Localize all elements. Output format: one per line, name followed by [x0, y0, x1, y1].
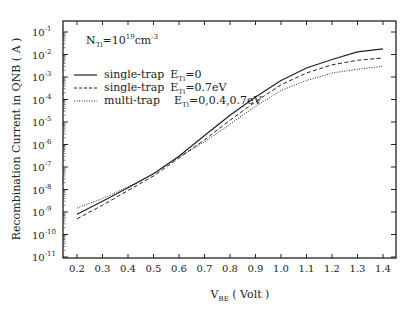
y-tick-label: 10-6 — [32, 138, 52, 151]
y-tick-label: 10-1 — [32, 25, 52, 38]
x-tick-label: 0.5 — [146, 263, 162, 274]
y-tick-label: 10-8 — [32, 183, 52, 196]
x-tick-label: 0.8 — [222, 263, 238, 274]
y-axis-ticks: 10-110-210-310-410-510-610-710-810-910-1… — [32, 25, 396, 263]
x-tick-label: 0.2 — [69, 263, 85, 274]
doping-annotation: NTi=1019cm-3 — [86, 33, 158, 49]
y-tick-label: 10-5 — [32, 115, 52, 128]
x-tick-label: 0.7 — [197, 263, 213, 274]
x-tick-label: 1.4 — [375, 263, 391, 274]
y-tick-label: 10-11 — [32, 250, 56, 263]
y-tick-label: 10-2 — [32, 48, 52, 61]
y-tick-label: 10-9 — [32, 205, 52, 218]
x-axis-title: VBE ( Volt ) — [210, 288, 270, 303]
y-tick-label: 10-4 — [32, 93, 52, 106]
y-tick-label: 10-7 — [32, 160, 52, 173]
x-tick-label: 1.0 — [273, 263, 289, 274]
chart: 10-110-210-310-410-510-610-710-810-910-1… — [0, 0, 411, 317]
x-tick-label: 0.9 — [248, 263, 264, 274]
x-tick-label: 1.2 — [324, 263, 340, 274]
y-tick-label: 10-3 — [32, 70, 52, 83]
x-tick-label: 0.6 — [171, 263, 187, 274]
plot-frame — [63, 21, 396, 258]
x-tick-label: 1.3 — [350, 263, 366, 274]
legend: single-trapETi=0 single-trapETi=0.7eV mu… — [74, 68, 263, 109]
x-tick-label: 1.1 — [299, 263, 315, 274]
x-tick-label: 0.4 — [120, 263, 136, 274]
legend-label-2: multi-trapETi=0,0.4,0.7eV — [104, 94, 263, 109]
x-axis-ticks: 0.20.30.40.50.60.70.80.91.01.11.21.31.4 — [69, 21, 391, 274]
y-tick-label: 10-10 — [32, 228, 56, 241]
y-axis-title: Recombination Current in QNB ( A ) — [10, 38, 23, 241]
x-tick-label: 0.3 — [95, 263, 111, 274]
